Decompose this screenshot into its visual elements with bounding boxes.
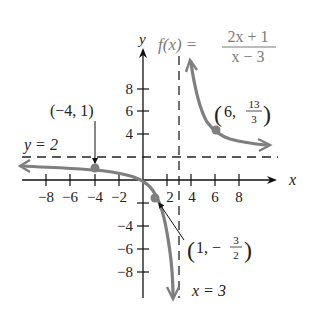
point-c-prefix: 1, − (196, 239, 221, 256)
x-tick-label: −6 (62, 189, 78, 205)
y-axis-label: y (137, 31, 146, 47)
y-tick-label: −4 (117, 218, 133, 234)
vertical-asymptote-label: x = 3 (191, 282, 226, 299)
y-tick-label: −8 (117, 264, 133, 280)
x-tick-label: 4 (188, 189, 196, 205)
x-tick-label: −2 (111, 189, 127, 205)
point-c-num: 3 (233, 234, 239, 246)
point-1-neg3-2 (151, 194, 160, 203)
point-a-label: (−4, 1) (50, 102, 94, 120)
paren-close: ) (244, 237, 252, 263)
x-tick-label: −4 (87, 189, 103, 205)
y-tick-label: 8 (126, 81, 134, 97)
function-denominator: x − 3 (231, 48, 264, 65)
y-tick-label: 6 (126, 103, 134, 119)
paren-open: ( (187, 237, 195, 263)
point-neg4-1 (91, 164, 100, 173)
horizontal-asymptote-label: y = 2 (22, 136, 58, 154)
point-b-prefix: 6, (224, 103, 236, 120)
paren-close: ) (263, 101, 271, 127)
pointer-arrow-c (159, 203, 184, 240)
x-axis-label: x (288, 171, 296, 188)
x-tick-label: 2 (166, 189, 174, 205)
y-tick-label: −6 (117, 241, 133, 257)
x-tick-label: 8 (235, 189, 243, 205)
y-tick-label: 4 (126, 126, 134, 142)
rational-function-graph: −8 −6 −4 −2 2 4 6 8 8 6 4 −4 −6 −8 x y (… (0, 0, 312, 314)
x-tick-label: 6 (211, 189, 219, 205)
paren-open: ( (214, 101, 222, 127)
point-b-den: 3 (251, 113, 257, 125)
curve-left-branch (22, 166, 173, 296)
point-b-num: 13 (249, 98, 261, 110)
function-label: f(x) = (158, 35, 197, 54)
function-numerator: 2x + 1 (227, 28, 268, 45)
x-tick-label: −8 (38, 189, 54, 205)
point-c-den: 2 (233, 249, 239, 261)
